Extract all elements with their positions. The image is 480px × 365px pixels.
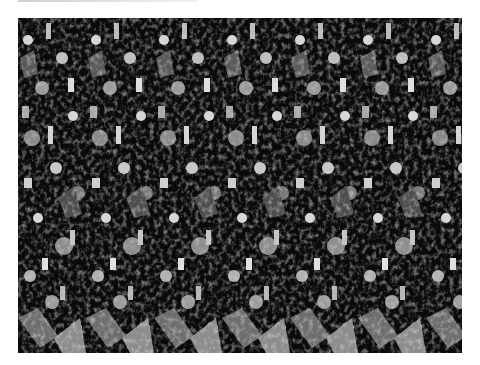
stereogram-pattern (18, 18, 462, 353)
top-divider (18, 0, 198, 2)
autostereogram-image: Grayscale autostereogram (magic eye) wit… (18, 18, 462, 353)
